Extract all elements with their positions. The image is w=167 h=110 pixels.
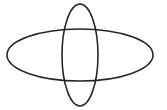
diagram-canvas: Two overlapping ellipses A wide horizont… [0, 0, 167, 110]
overlapping-ellipses-figure: Two overlapping ellipses A wide horizont… [0, 0, 167, 110]
figure-background [0, 0, 167, 110]
